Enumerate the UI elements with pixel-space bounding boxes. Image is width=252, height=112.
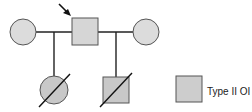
- legend-swatch: [176, 76, 202, 102]
- female-mate-left: [10, 19, 36, 45]
- legend-label: Type II OI: [207, 86, 250, 97]
- female-mate-right: [133, 19, 159, 45]
- proband-arrow-icon: [59, 4, 71, 16]
- proband-male: [72, 18, 98, 45]
